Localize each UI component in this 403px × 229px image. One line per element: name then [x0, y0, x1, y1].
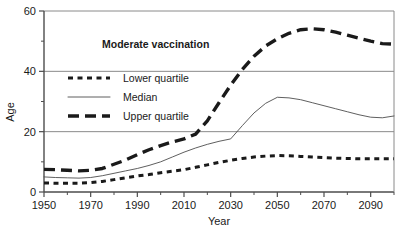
chart-legend: Lower quartileMedianUpper quartile: [68, 72, 189, 122]
series-line-median: [44, 97, 394, 178]
gridlines: [44, 11, 394, 132]
y-axis-tick-labels: 0204060: [24, 5, 36, 198]
y-axis-title: Age: [4, 102, 16, 122]
legend-label-median: Median: [123, 91, 158, 103]
legend-label-upper-quartile: Upper quartile: [123, 110, 189, 122]
y-tick-label-20: 20: [24, 126, 36, 138]
x-axis-title: Year: [208, 215, 231, 227]
y-tick-label-40: 40: [24, 65, 36, 77]
age-quartiles-line-chart: 0204060 19501970199020102030205020702090…: [0, 0, 403, 229]
x-axis-ticks: [44, 192, 394, 197]
x-tick-label-2090: 2090: [358, 199, 382, 211]
x-tick-label-1990: 1990: [125, 199, 149, 211]
x-tick-label-2050: 2050: [265, 199, 289, 211]
plot-title: Moderate vaccination: [102, 38, 209, 50]
x-tick-label-2010: 2010: [172, 199, 196, 211]
series-line-upper-quartile: [44, 29, 394, 171]
chart-container: 0204060 19501970199020102030205020702090…: [0, 0, 403, 229]
data-series-layer: [44, 29, 394, 183]
y-tick-label-60: 60: [24, 5, 36, 17]
y-axis-ticks: [39, 11, 44, 192]
x-axis-tick-labels: 19501970199020102030205020702090: [32, 199, 383, 211]
y-tick-label-0: 0: [30, 186, 36, 198]
x-tick-label-2070: 2070: [312, 199, 336, 211]
legend-label-lower-quartile: Lower quartile: [123, 72, 189, 84]
x-tick-label-1950: 1950: [32, 199, 56, 211]
x-tick-label-2030: 2030: [218, 199, 242, 211]
x-tick-label-1970: 1970: [78, 199, 102, 211]
